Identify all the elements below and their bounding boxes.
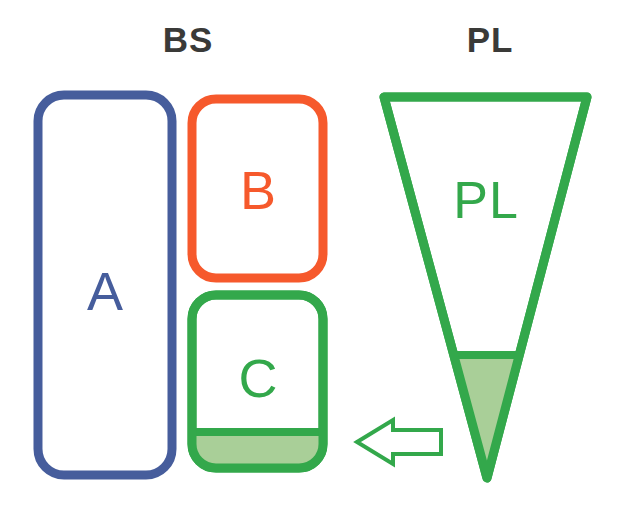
- diagram-canvas: BS PL A B C PL: [0, 0, 622, 512]
- diagram-svg: [0, 0, 622, 512]
- bs-box-a-label: A: [87, 260, 123, 322]
- pl-triangle-label: PL: [453, 170, 519, 230]
- bs-box-c-green-fill: [192, 432, 323, 468]
- bs-box-c-label: C: [239, 347, 278, 409]
- transfer-arrow-icon[interactable]: [357, 420, 441, 464]
- bs-box-b-label: B: [240, 159, 276, 221]
- bs-box-c-fill-group: [192, 432, 323, 468]
- header-label-bs: BS: [163, 20, 214, 60]
- header-label-pl: PL: [467, 20, 514, 60]
